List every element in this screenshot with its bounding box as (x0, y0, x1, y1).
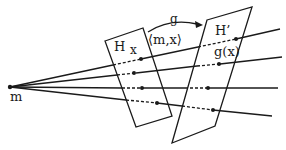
point-x (139, 57, 143, 61)
plane-h-prime (172, 7, 252, 143)
point-gx (234, 37, 238, 41)
projective-map-diagram: m H x g ⟨m,x⟩ H’ g(x) (0, 0, 286, 150)
label-m: m (10, 90, 22, 103)
label-g: g (170, 13, 178, 25)
point-h-3 (140, 86, 144, 90)
ray-3-segment-a (10, 87, 122, 88)
point-h-2 (132, 71, 136, 75)
label-h: H (114, 40, 125, 53)
diagram-canvas (0, 0, 286, 150)
label-x: x (130, 44, 137, 56)
label-span-mx: ⟨m,x⟩ (148, 33, 182, 46)
label-gx: g(x) (214, 45, 240, 58)
point-h-4 (155, 101, 159, 105)
point-hp-2 (217, 62, 221, 66)
ray-4-segment-a (10, 87, 126, 100)
label-h-prime: H’ (215, 24, 230, 37)
ray-1-segment-a (10, 65, 113, 87)
point-hp-4 (211, 108, 215, 112)
ray-4-segment-c (213, 110, 272, 116)
arrowhead-icon (195, 21, 203, 28)
point-hp-3 (206, 86, 210, 90)
ray-2-segment-a (10, 75, 117, 87)
